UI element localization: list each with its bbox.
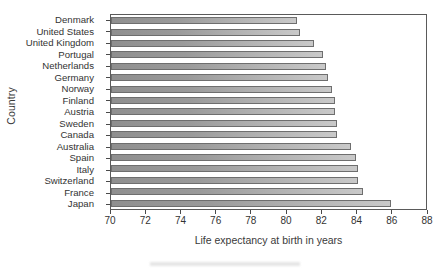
y-axis-category-label: Netherlands <box>18 60 98 72</box>
bar-series <box>111 15 426 209</box>
y-axis-category-label: Japan <box>18 199 98 211</box>
x-axis-title: Life expectancy at birth in years <box>110 234 427 246</box>
y-axis-category-label: Norway <box>18 83 98 95</box>
y-axis-category-label: Canada <box>18 129 98 141</box>
bar-row <box>111 198 426 209</box>
y-axis-category-label: Finland <box>18 95 98 107</box>
plot-area <box>110 14 427 210</box>
bar <box>111 165 358 172</box>
bar-chart-figure: Country DenmarkUnited StatesUnited Kingd… <box>0 0 448 271</box>
bar-row <box>111 15 426 26</box>
y-axis-tick-marks <box>103 14 110 210</box>
x-axis-tick-label: 76 <box>210 215 221 226</box>
y-axis-category-label: United States <box>18 26 98 38</box>
y-axis-tick <box>103 14 110 26</box>
x-axis-tick-label: 78 <box>245 215 256 226</box>
x-axis-tick <box>321 210 322 214</box>
bar <box>111 154 356 161</box>
scan-artifact <box>150 262 300 266</box>
y-axis-tick <box>103 164 110 176</box>
bar-row <box>111 140 426 151</box>
bar-row <box>111 38 426 49</box>
bar-row <box>111 118 426 129</box>
bar <box>111 131 337 138</box>
y-axis-category-label: Switzerland <box>18 175 98 187</box>
bar <box>111 40 314 47</box>
y-axis-category-label: France <box>18 187 98 199</box>
bar-row <box>111 152 426 163</box>
x-axis-tick-labels: 70727476788082848688 <box>110 215 427 229</box>
x-axis-tick <box>145 210 146 214</box>
bar <box>111 17 297 24</box>
bar <box>111 86 332 93</box>
x-axis-tick-label: 86 <box>386 215 397 226</box>
x-axis-tick <box>110 210 111 214</box>
x-axis-tick-label: 74 <box>175 215 186 226</box>
x-axis-tick-label: 82 <box>316 215 327 226</box>
y-axis-category-label: Italy <box>18 164 98 176</box>
x-axis-tick <box>391 210 392 214</box>
y-axis-tick <box>103 72 110 84</box>
y-axis-tick <box>103 95 110 107</box>
bar <box>111 120 337 127</box>
y-axis-title-text: Country <box>5 87 17 124</box>
y-axis-tick <box>103 60 110 72</box>
y-axis-category-label: Denmark <box>18 14 98 26</box>
bar-row <box>111 129 426 140</box>
bar <box>111 97 335 104</box>
y-axis-tick <box>103 199 110 211</box>
y-axis-tick <box>103 83 110 95</box>
bar-row <box>111 186 426 197</box>
bar-row <box>111 163 426 174</box>
y-axis-category-label: Australia <box>18 141 98 153</box>
y-axis-tick <box>103 26 110 38</box>
bar-row <box>111 26 426 37</box>
y-axis-category-label: Germany <box>18 72 98 84</box>
y-axis-tick <box>103 129 110 141</box>
y-axis-category-labels: DenmarkUnited StatesUnited KingdomPortug… <box>18 14 98 210</box>
bar-row <box>111 49 426 60</box>
y-axis-category-label: Portugal <box>18 49 98 61</box>
y-axis-tick <box>103 152 110 164</box>
y-axis-tick <box>103 175 110 187</box>
y-axis-category-label: Austria <box>18 106 98 118</box>
x-axis-tick <box>250 210 251 214</box>
x-axis-tick <box>356 210 357 214</box>
x-axis-tick-label: 70 <box>104 215 115 226</box>
bar <box>111 108 335 115</box>
y-axis-category-label: United Kingdom <box>18 37 98 49</box>
y-axis-category-label: Sweden <box>18 118 98 130</box>
x-axis-tick-label: 84 <box>351 215 362 226</box>
x-axis-tick <box>180 210 181 214</box>
y-axis-category-label: Spain <box>18 152 98 164</box>
y-axis-tick <box>103 49 110 61</box>
y-axis-tick <box>103 106 110 118</box>
bar <box>111 143 351 150</box>
y-axis-tick <box>103 141 110 153</box>
y-axis-tick <box>103 187 110 199</box>
bar <box>111 51 323 58</box>
bar <box>111 177 358 184</box>
bar <box>111 200 391 207</box>
bar-row <box>111 72 426 83</box>
x-axis-tick <box>286 210 287 214</box>
x-axis-tick <box>215 210 216 214</box>
bar-row <box>111 61 426 72</box>
x-axis-tick-label: 88 <box>421 215 432 226</box>
bar-row <box>111 95 426 106</box>
bar-row <box>111 83 426 94</box>
x-axis-tick <box>427 210 428 214</box>
y-axis-tick <box>103 118 110 130</box>
x-axis-tick-label: 72 <box>140 215 151 226</box>
bar <box>111 29 300 36</box>
bar-row <box>111 106 426 117</box>
y-axis-tick <box>103 37 110 49</box>
bar <box>111 74 328 81</box>
bar <box>111 188 363 195</box>
bar <box>111 63 326 70</box>
bar-row <box>111 175 426 186</box>
x-axis-tick-label: 80 <box>281 215 292 226</box>
